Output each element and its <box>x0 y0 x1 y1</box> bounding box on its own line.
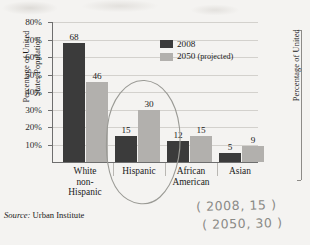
bar-value-label: 46 <box>92 71 101 81</box>
x-axis-line <box>52 162 258 163</box>
adjacent-figure-tick <box>297 180 301 181</box>
tick-30: 30% <box>48 110 52 111</box>
bar-hispanic-2050[interactable]: 30 <box>138 110 160 163</box>
bar-value-label: 15 <box>121 125 130 135</box>
legend-swatch-icon <box>160 53 173 61</box>
tick-label-20: 20% <box>25 122 42 132</box>
category-label-asian: Asian <box>217 166 263 177</box>
bar-chart-figure: Percentage of United States Population 8… <box>0 0 310 245</box>
legend-label-2050-suffix: (projected) <box>195 52 233 61</box>
tick-40: 40% <box>48 92 52 93</box>
tick-60: 60% <box>48 57 52 58</box>
handwritten-annotation-line1: ( 2008, 15 ) <box>196 197 277 214</box>
bar-asian-2050[interactable]: 9 <box>242 146 264 162</box>
tick-label-40: 40% <box>25 87 42 97</box>
bar-hispanic-2008[interactable]: 15 <box>115 136 137 162</box>
bar-white-non-hispanic-2008[interactable]: 68 <box>63 43 85 162</box>
bar-group-white-non-hispanic: 68 46 <box>63 22 109 162</box>
source-label: Source: <box>4 210 30 220</box>
category-label-white-non-hispanic: White non- Hispanic <box>57 166 113 198</box>
tick-80: 80% <box>48 22 52 23</box>
adjacent-figure-y-axis-title: Percentage of United <box>292 0 303 140</box>
chart-legend: 2008 2050 (projected) <box>160 38 233 63</box>
bar-african-american-2008[interactable]: 12 <box>167 141 189 162</box>
tick-label-10: 10% <box>25 140 42 150</box>
bar-group-hispanic: 15 30 <box>115 22 161 162</box>
legend-label-2050: 2050 (projected) <box>177 50 233 63</box>
legend-label-2050-year: 2050 <box>177 51 195 61</box>
tick-label-50: 50% <box>25 70 42 80</box>
bar-value-label: 15 <box>196 125 205 135</box>
category-label-african-american: African American <box>165 166 217 187</box>
tick-label-30: 30% <box>25 105 42 115</box>
bar-value-label: 5 <box>228 142 233 152</box>
tick-10: 10% <box>48 145 52 146</box>
legend-swatch-icon <box>160 40 173 48</box>
legend-label-2008: 2008 <box>177 38 195 50</box>
bar-value-label: 12 <box>173 130 182 140</box>
bar-value-label: 9 <box>251 135 256 145</box>
source-note: Source: Urban Institute <box>4 210 84 220</box>
bar-value-label: 68 <box>69 32 78 42</box>
bar-white-non-hispanic-2050[interactable]: 46 <box>86 82 108 163</box>
bar-value-label: 30 <box>144 99 153 109</box>
category-label-hispanic: Hispanic <box>113 166 165 177</box>
tick-20: 20% <box>48 127 52 128</box>
tick-label-80: 80% <box>25 17 42 27</box>
handwritten-annotation-line2: ( 2050, 30 ) <box>202 215 283 232</box>
legend-item-2008: 2008 <box>160 38 233 50</box>
tick-70: 70% <box>48 40 52 41</box>
tick-label-60: 60% <box>25 52 42 62</box>
bar-asian-2008[interactable]: 5 <box>219 153 241 162</box>
legend-item-2050: 2050 (projected) <box>160 50 233 62</box>
bar-african-american-2050[interactable]: 15 <box>190 136 212 162</box>
source-value: Urban Institute <box>33 210 85 220</box>
tick-label-70: 70% <box>25 35 42 45</box>
tick-50: 50% <box>48 75 52 76</box>
